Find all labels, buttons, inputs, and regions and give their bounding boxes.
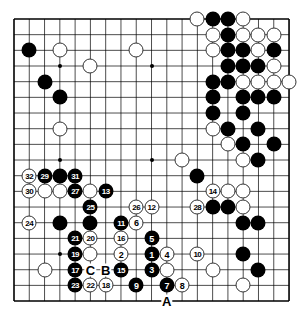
black-stone <box>251 59 266 74</box>
white-move-stone: 6 <box>129 215 144 230</box>
black-stone <box>220 74 235 89</box>
white-stone <box>236 27 251 42</box>
star-point <box>150 64 154 68</box>
white-move-stone: 8 <box>175 278 190 293</box>
white-stone <box>129 43 144 58</box>
star-point <box>150 158 154 162</box>
black-stone <box>190 168 205 183</box>
black-stone <box>236 59 251 74</box>
black-move-stone: 27 <box>68 184 83 199</box>
white-move-stone: 14 <box>205 184 220 199</box>
white-stone <box>83 184 98 199</box>
star-point <box>58 252 62 256</box>
white-stone <box>205 27 220 42</box>
black-move-stone: 21 <box>68 231 83 246</box>
go-board: 1234567891011121314151617181920212223242… <box>0 0 302 316</box>
white-stone <box>236 153 251 168</box>
black-stone <box>251 153 266 168</box>
white-move-stone: 18 <box>98 278 113 293</box>
white-stone <box>220 184 235 199</box>
star-point <box>58 64 62 68</box>
white-stone <box>52 121 67 136</box>
white-move-stone: 2 <box>113 247 128 262</box>
black-stone <box>220 43 235 58</box>
black-stone <box>205 12 220 27</box>
white-stone <box>37 262 52 277</box>
white-stone <box>236 184 251 199</box>
white-move-stone: 10 <box>190 247 205 262</box>
point-label-b: B <box>100 263 111 276</box>
black-move-stone: 29 <box>37 168 52 183</box>
white-stone <box>52 43 67 58</box>
black-stone <box>83 215 98 230</box>
white-stone <box>83 247 98 262</box>
white-stone <box>266 59 281 74</box>
white-stone <box>251 74 266 89</box>
white-stone <box>251 27 266 42</box>
white-stone <box>83 59 98 74</box>
black-stone <box>251 215 266 230</box>
black-stone <box>52 215 67 230</box>
black-stone <box>236 247 251 262</box>
black-stone <box>236 90 251 105</box>
black-move-stone: 25 <box>83 200 98 215</box>
black-stone <box>251 262 266 277</box>
black-stone <box>52 90 67 105</box>
black-move-stone: 17 <box>68 262 83 277</box>
black-stone <box>52 168 67 183</box>
black-stone <box>266 90 281 105</box>
black-stone <box>236 106 251 121</box>
black-move-stone: 23 <box>68 278 83 293</box>
black-move-stone: 1 <box>144 247 159 262</box>
black-stone <box>205 200 220 215</box>
white-move-stone: 12 <box>144 200 159 215</box>
black-move-stone: 9 <box>129 278 144 293</box>
white-stone <box>266 74 281 89</box>
point-label-c: C <box>85 263 96 276</box>
white-move-stone: 28 <box>190 200 205 215</box>
white-stone <box>236 200 251 215</box>
black-move-stone: 15 <box>113 262 128 277</box>
black-stone <box>236 137 251 152</box>
white-move-stone: 20 <box>83 231 98 246</box>
black-stone <box>236 215 251 230</box>
white-stone <box>266 27 281 42</box>
black-stone <box>220 200 235 215</box>
black-stone <box>220 12 235 27</box>
white-stone <box>37 184 52 199</box>
white-stone <box>220 137 235 152</box>
white-stone <box>52 184 67 199</box>
white-stone <box>159 262 174 277</box>
white-move-stone: 4 <box>159 247 174 262</box>
black-move-stone: 19 <box>68 247 83 262</box>
black-stone <box>220 121 235 136</box>
white-move-stone: 22 <box>83 278 98 293</box>
white-move-stone: 32 <box>22 168 37 183</box>
black-stone <box>37 74 52 89</box>
black-move-stone: 7 <box>159 278 174 293</box>
black-stone <box>266 137 281 152</box>
black-move-stone: 3 <box>144 262 159 277</box>
white-stone <box>236 74 251 89</box>
white-move-stone: 24 <box>22 215 37 230</box>
black-stone <box>205 90 220 105</box>
white-stone <box>205 121 220 136</box>
black-stone <box>22 43 37 58</box>
black-stone <box>251 90 266 105</box>
white-stone <box>236 12 251 27</box>
black-stone <box>236 43 251 58</box>
star-point <box>58 158 62 162</box>
white-stone <box>190 12 205 27</box>
black-stone <box>205 74 220 89</box>
black-stone <box>266 43 281 58</box>
white-stone <box>282 74 297 89</box>
white-move-stone: 26 <box>129 200 144 215</box>
black-move-stone: 13 <box>98 184 113 199</box>
black-stone <box>205 106 220 121</box>
white-stone <box>251 43 266 58</box>
black-move-stone: 11 <box>113 215 128 230</box>
black-move-stone: 5 <box>144 231 159 246</box>
black-stone <box>251 121 266 136</box>
point-label-a: A <box>161 295 172 308</box>
white-move-stone: 16 <box>113 231 128 246</box>
